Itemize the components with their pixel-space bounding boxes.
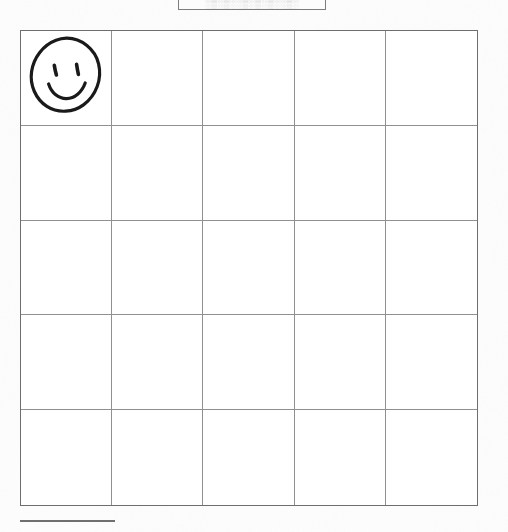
grid-cell-r4c1[interactable] — [21, 315, 112, 410]
grid-cell-r4c5[interactable] — [386, 315, 477, 410]
grid-cell-r2c4[interactable] — [295, 126, 386, 221]
grid-cell-r2c5[interactable] — [386, 126, 477, 221]
grid-cell-r3c3[interactable] — [203, 221, 294, 316]
grid-cell-r1c5[interactable] — [386, 31, 477, 126]
grid-cell-r5c2[interactable] — [112, 410, 203, 505]
grid-cell-r2c2[interactable] — [112, 126, 203, 221]
header-text-box-label: ░▒░▒░░▒░▒░▒░░▒░ — [179, 0, 325, 9]
grid-cell-r1c3[interactable] — [203, 31, 294, 126]
grid-cell-r2c1[interactable] — [21, 126, 112, 221]
grid-cell-r4c4[interactable] — [295, 315, 386, 410]
bottom-rule — [20, 520, 115, 522]
grid-cell-r1c2[interactable] — [112, 31, 203, 126]
grid-cell-r5c4[interactable] — [295, 410, 386, 505]
grid-cell-r2c3[interactable] — [203, 126, 294, 221]
grid-cell-r4c2[interactable] — [112, 315, 203, 410]
grid-cell-r5c3[interactable] — [203, 410, 294, 505]
header-text-box: ░▒░▒░░▒░▒░▒░░▒░ — [178, 0, 326, 10]
smiley-face-icon — [27, 35, 105, 115]
grid-cell-r5c1[interactable] — [21, 410, 112, 505]
grid-cell-r3c1[interactable] — [21, 221, 112, 316]
grid-cell-r1c4[interactable] — [295, 31, 386, 126]
grid-cell-r3c4[interactable] — [295, 221, 386, 316]
grid-cell-r3c2[interactable] — [112, 221, 203, 316]
grid-cell-r4c3[interactable] — [203, 315, 294, 410]
grid-cell-r5c5[interactable] — [386, 410, 477, 505]
grid-cell-r1c1[interactable] — [21, 31, 112, 126]
worksheet-grid — [20, 30, 478, 506]
grid-cell-r3c5[interactable] — [386, 221, 477, 316]
